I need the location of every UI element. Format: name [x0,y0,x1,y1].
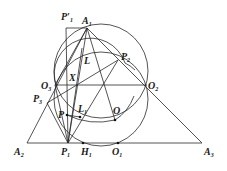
label-p1: P1 [61,146,70,158]
label-x: X [68,72,76,83]
label-h1: H1 [80,146,92,158]
point-o-dot [114,119,117,122]
label-subscript: 2 [126,57,130,63]
label-p1p: P′1 [61,11,73,23]
label-subscript: 1 [89,21,92,27]
label-p: P [58,109,65,120]
circle-upper [54,24,148,118]
label-subscript: 3 [210,152,214,158]
triangle-a1-a2-a3 [27,28,202,143]
label-a1: A1 [81,15,92,27]
label-p2: P2 [121,51,130,63]
label-o2: O2 [148,80,158,92]
label-subscript: 1 [67,152,70,158]
point-labels: A1A2A3P′1P1P2P3O1O2O3H1XLL1PO [13,11,214,158]
label-o1: O1 [112,146,122,158]
line-l-p1 [68,48,82,143]
label-a2: A2 [13,146,24,158]
label-subscript: 3 [38,99,42,105]
label-subscript: 3 [47,86,51,92]
label-p3: P3 [33,93,42,105]
point-h1-dot [82,142,85,145]
label-subscript: 1 [119,152,122,158]
point-l1-dot [79,116,82,119]
point-p-dot [66,114,69,117]
label-l: L [83,55,90,66]
geometry-diagram: A1A2A3P′1P1P2P3O1O2O3H1XLL1PO [0,0,227,171]
label-o: O [113,105,120,116]
label-o3: O3 [41,80,51,92]
label-subscript: 1 [89,152,92,158]
label-subscript: 1 [70,17,73,23]
point-o1-dot [117,142,120,145]
label-a3: A3 [203,146,214,158]
arc-p2-end [125,63,135,70]
label-l1: L1 [77,103,87,115]
line-p1prime-p1 [66,28,68,143]
label-subscript: 2 [20,152,24,158]
label-subscript: 2 [154,86,158,92]
label-subscript: 1 [84,109,87,115]
